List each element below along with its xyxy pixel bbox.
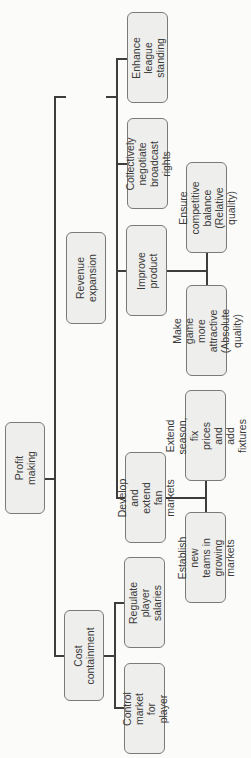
node-profit-making: Profit making bbox=[5, 422, 45, 514]
node-label: Make game more attractive (Absolute qual… bbox=[171, 308, 243, 352]
node-label: Ensure competitive balance (Relative qua… bbox=[177, 181, 237, 234]
node-cost-containment: Cost containment bbox=[64, 610, 104, 701]
node-label: Extend season, fix prices and add fixtur… bbox=[164, 417, 248, 454]
connector-improve bbox=[116, 270, 126, 272]
node-control-market-for-player: Control market for player bbox=[124, 663, 165, 754]
node-label: Control market for player bbox=[121, 692, 169, 726]
node-label: Collectively negotiate broadcast rights bbox=[124, 137, 172, 190]
node-make-game-attractive: Make game more attractive (Absolute qual… bbox=[186, 285, 227, 376]
node-develop-fan-markets: Develop and extend fan markets bbox=[125, 452, 166, 543]
node-label: Regulate player salaries bbox=[127, 581, 163, 623]
node-extend-season: Extend season, fix prices and add fixtur… bbox=[185, 390, 226, 481]
node-enhance-league-standing: Enhance league standing bbox=[127, 12, 168, 103]
connector-enhance bbox=[116, 58, 127, 60]
node-improve-product: Improve product bbox=[126, 225, 167, 316]
node-label: Develop and extend fan markets bbox=[116, 478, 176, 517]
node-regulate-player-salaries: Regulate player salaries bbox=[124, 557, 165, 648]
connector-improve-trunk bbox=[206, 253, 208, 285]
connector-improve-out bbox=[166, 270, 206, 272]
connector-revenue-expansion bbox=[54, 96, 66, 98]
node-revenue-expansion: Revenue expansion bbox=[66, 232, 106, 324]
node-label: Enhance league standing bbox=[130, 37, 166, 78]
node-establish-new-teams: Establish new teams in growing markets bbox=[185, 512, 226, 603]
node-label: Cost containment bbox=[72, 627, 96, 684]
connector-root-trunk bbox=[54, 96, 56, 656]
connector-cost-trunk bbox=[114, 602, 116, 708]
connector-develop-trunk bbox=[205, 480, 207, 512]
node-label: Establish new teams in growing markets bbox=[176, 536, 236, 579]
node-collectively-negotiate: Collectively negotiate broadcast rights bbox=[127, 118, 168, 209]
node-label: Profit making bbox=[13, 451, 37, 485]
connector-regulate bbox=[114, 602, 124, 604]
node-ensure-competitive-balance: Ensure competitive balance (Relative qua… bbox=[186, 162, 227, 253]
connector-revenue-trunk bbox=[116, 58, 118, 498]
node-label: Improve product bbox=[135, 252, 159, 290]
node-label: Revenue expansion bbox=[74, 254, 98, 302]
